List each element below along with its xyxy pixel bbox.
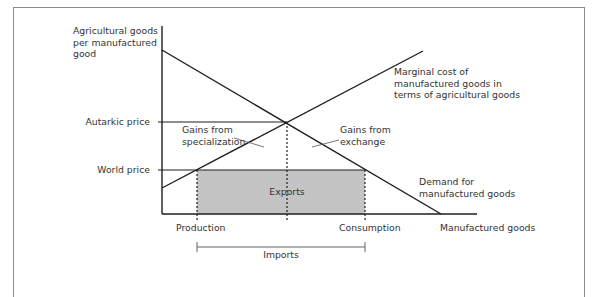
consumption-label: Consumption xyxy=(339,222,401,234)
marginal-cost-label: Marginal cost of manufactured goods in t… xyxy=(394,66,520,101)
x-axis-label: Manufactured goods xyxy=(440,222,535,234)
autarkic-price-label: Autarkic price xyxy=(85,116,150,128)
production-label: Production xyxy=(176,222,225,234)
imports-label: Imports xyxy=(251,249,311,261)
gains-from-specialization-label: Gains from specialization xyxy=(182,124,245,147)
demand-label: Demand for manufactured goods xyxy=(419,176,515,199)
exports-label: Exports xyxy=(257,186,317,198)
world-price-label: World price xyxy=(97,164,150,176)
gains-from-exchange-label: Gains from exchange xyxy=(340,124,391,147)
marginal-cost-curve xyxy=(162,51,423,188)
y-axis-label: Agricultural goods per manufactured good xyxy=(73,25,158,60)
